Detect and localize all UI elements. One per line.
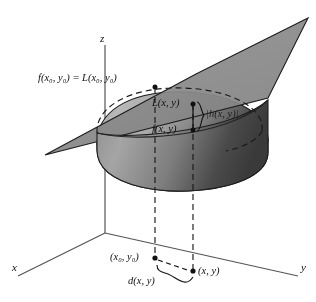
dashed-line-ground-segment [158, 260, 190, 271]
near-point-dot [190, 268, 195, 273]
plane-value-dot [191, 102, 196, 107]
surface-value-label: f(x, y) [152, 124, 176, 135]
base-point-label: (x₀, y₀) [110, 252, 139, 263]
tangent-point-dot [153, 85, 158, 90]
near-point-label: (x, y) [198, 266, 220, 277]
distance-label: d(x, y) [128, 276, 155, 287]
error-label: |h(x, y)| [206, 109, 239, 120]
base-point-dot [152, 255, 157, 260]
tangent-point-label: f(x₀, y₀) = L(x₀, y₀) [38, 73, 117, 84]
z-axis-label: z [100, 33, 104, 44]
distance-brace [157, 265, 193, 282]
y-axis-label: y [301, 262, 306, 273]
distance-brace-group [157, 265, 193, 282]
plane-value-label: L(x, y) [152, 98, 179, 109]
x-axis-label: x [12, 262, 17, 273]
tangent-plane-figure [0, 0, 316, 302]
surface-value-dot [191, 128, 196, 133]
x-axis [18, 233, 105, 276]
